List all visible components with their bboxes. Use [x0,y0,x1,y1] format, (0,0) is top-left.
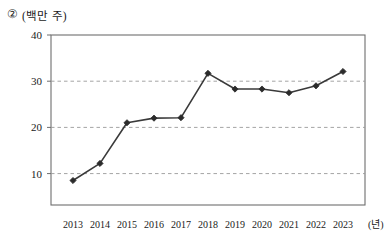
x-tick-label-2023: 2023 [333,219,353,230]
chart-figure: ② (백만 주) 10203040 2013201420152016201720… [0,0,390,240]
x-axis-unit-label: (년) [368,219,384,231]
data-point-marker-2022 [313,83,319,89]
gridlines [51,81,365,173]
x-tick-label-2013: 2013 [63,219,83,230]
y-tick-label-10: 10 [31,168,43,180]
x-tick-label-2016: 2016 [144,219,164,230]
data-point-marker-2020 [259,86,265,92]
x-tick-label-2022: 2022 [306,219,326,230]
x-tick-label-2018: 2018 [198,219,218,230]
y-tick-label-30: 30 [31,75,43,87]
plot-border [51,35,365,205]
data-series-layer [70,68,346,183]
x-tick-label-2021: 2021 [279,219,299,230]
x-tick-label-2014: 2014 [90,219,110,230]
series-line-0 [73,71,343,180]
y-axis-tick-labels: 10203040 [31,29,51,180]
data-point-marker-2016 [151,115,157,121]
x-tick-label-2015: 2015 [117,219,137,230]
data-point-marker-2021 [286,90,292,96]
x-tick-label-2020: 2020 [252,219,272,230]
data-point-marker-2023 [340,68,346,74]
y-tick-label-20: 20 [31,121,43,133]
plot-frame [51,35,365,205]
line-chart-plot: 10203040 2013201420152016201720182019202… [0,0,390,240]
x-axis-tick-labels: 2013201420152016201720182019202020212022… [63,219,353,230]
x-tick-label-2019: 2019 [225,219,245,230]
y-tick-label-40: 40 [31,29,43,41]
x-tick-label-2017: 2017 [171,219,191,230]
